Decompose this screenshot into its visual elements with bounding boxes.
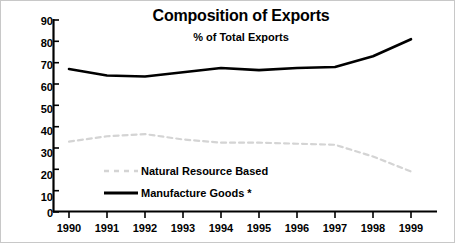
series-line-natural-resource-based [69,134,411,171]
series-line-manufacture-goods [69,39,411,76]
plot-area [1,1,455,243]
x-tick-marks [69,212,411,218]
chart-figure: Composition of Exports % of Total Export… [0,0,455,243]
